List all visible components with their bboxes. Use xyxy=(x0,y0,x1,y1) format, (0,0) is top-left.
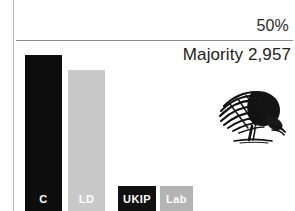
bar-libdem: LD xyxy=(68,70,105,211)
bar-label-labour: Lab xyxy=(160,186,193,211)
oak-tree-logo xyxy=(212,86,288,146)
bar-label-conservative: C xyxy=(25,186,62,211)
bar-conservative: C xyxy=(25,55,62,211)
bar-label-ukip-text: UKIP xyxy=(123,193,151,205)
bar-label-libdem: LD xyxy=(68,186,105,211)
chart-screenshot: 50% Majority 2,957 C LD UKIP Lab xyxy=(0,0,295,211)
bar-label-labour-text: Lab xyxy=(166,193,187,205)
bar-label-ukip: UKIP xyxy=(118,186,156,211)
